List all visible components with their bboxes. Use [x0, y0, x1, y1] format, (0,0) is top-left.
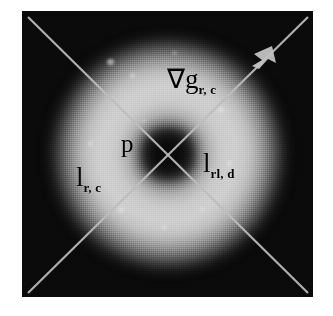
point-label-base: p: [121, 130, 134, 157]
left-line-label-base: l: [76, 162, 84, 192]
gradient-label-base: ∇g: [167, 64, 199, 94]
right-line-label-subscript: rl, d: [211, 166, 235, 181]
gradient-label-subscript: r, c: [199, 82, 217, 97]
left-line-label: lr, c: [76, 164, 101, 191]
point-label: p: [121, 131, 134, 156]
right-line-label-base: l: [203, 148, 211, 178]
gradient-arrowhead: [252, 46, 276, 69]
gradient-label: ∇gr, c: [167, 66, 216, 93]
left-line-label-subscript: r, c: [84, 180, 102, 195]
figure-container: ∇gr, c p lr, c lrl, d: [0, 0, 333, 316]
right-line-label: lrl, d: [203, 150, 235, 177]
annotation-overlay: [0, 0, 333, 316]
